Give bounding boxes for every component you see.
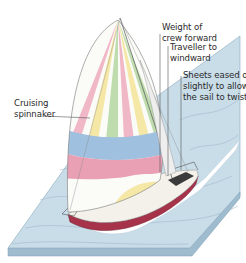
label-line: slightly to allow <box>183 81 246 92</box>
label-traveller: Traveller to windward <box>170 42 217 64</box>
label-line: windward <box>170 53 217 64</box>
label-cruising-spinnaker: Cruising spinnaker <box>14 98 55 120</box>
label-line: the sail to twist <box>183 92 246 103</box>
label-line: Weight of <box>162 22 217 33</box>
label-line: Traveller to <box>170 42 217 53</box>
label-weight-of-crew: Weight of crew forward <box>162 22 217 44</box>
label-sheets-eased: Sheets eased out slightly to allow the s… <box>183 70 246 103</box>
label-line: spinnaker <box>14 109 55 120</box>
label-line: Cruising <box>14 98 55 109</box>
label-line: Sheets eased out <box>183 70 246 81</box>
